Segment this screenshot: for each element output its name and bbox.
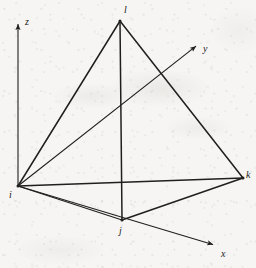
y-axis — [18, 46, 196, 186]
tetrahedron-vertices-group — [17, 20, 245, 222]
vertex-j — [121, 219, 124, 222]
edge-ik — [18, 178, 243, 186]
vertex-label-j: j — [119, 226, 122, 236]
y-axis-label: y — [203, 44, 207, 54]
x-axis-label: x — [221, 249, 225, 259]
x-axis — [18, 186, 213, 244]
z-axis-label: z — [25, 17, 29, 27]
vertex-k — [242, 177, 245, 180]
edge-ij — [18, 186, 122, 220]
vertex-l — [119, 20, 122, 23]
vertex-label-k: k — [246, 170, 250, 180]
axes-group — [18, 25, 213, 245]
vertex-label-l: l — [124, 5, 127, 15]
vertex-label-i: i — [9, 190, 12, 200]
tetrahedron-figure: zyxijkl — [0, 0, 256, 268]
edge-kl — [120, 21, 243, 178]
edge-il — [18, 21, 120, 186]
tetrahedron-edges-group — [18, 21, 243, 220]
edge-jl — [120, 21, 122, 220]
edge-jk — [122, 178, 243, 220]
vertex-i — [17, 185, 20, 188]
figure-canvas — [0, 0, 256, 268]
